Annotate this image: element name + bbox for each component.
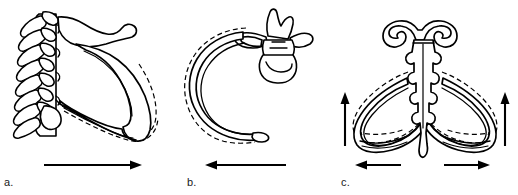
panel-b-displacement-arrow (205, 161, 286, 170)
panel-c-right-rib (425, 78, 496, 152)
panel-a-pump-handle-arrow (44, 161, 142, 170)
panel-a-upper-rib (58, 17, 136, 47)
figure-container: a. b. c. (0, 0, 518, 195)
panel-c-illustration (353, 21, 497, 157)
panel-c-right-elevation-arrow (501, 92, 510, 146)
panel-b-vertebra (235, 9, 313, 83)
panel-a-vertebral-column (14, 12, 62, 138)
panel-c-left-lateral-expansion-arrow (355, 161, 401, 170)
panel-c-left-elevation-arrow (341, 92, 350, 146)
panel-b-illustration (185, 9, 313, 143)
panel-label-a: a. (4, 177, 14, 188)
anatomical-diagram-svg (0, 0, 518, 195)
panel-c-right-lateral-expansion-arrow (444, 161, 490, 170)
panel-a-illustration (14, 12, 158, 141)
panel-label-c: c. (341, 177, 350, 188)
panel-label-b: b. (187, 177, 197, 188)
panel-a-ribcage-outline (56, 44, 151, 141)
